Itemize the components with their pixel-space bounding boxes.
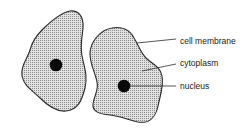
membrane-label: cell membrane [180, 36, 236, 46]
cell-right-nucleus [118, 80, 131, 93]
cell-left-nucleus [50, 59, 63, 72]
cell-left [22, 11, 86, 111]
cell-diagram: cell membrane cytoplasm nucleus [0, 0, 252, 132]
nucleus-label: nucleus [180, 81, 209, 91]
membrane-leader-line [137, 39, 176, 43]
cytoplasm-label: cytoplasm [180, 58, 218, 68]
